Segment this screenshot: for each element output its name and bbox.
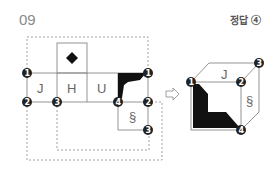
- diamond-icon: [66, 52, 78, 64]
- black-face-cube: [193, 84, 240, 128]
- arrow-right-icon: [166, 88, 179, 100]
- svg-text:2: 2: [25, 98, 31, 107]
- svg-text:3: 3: [55, 98, 61, 107]
- svg-text:2: 2: [146, 98, 152, 107]
- svg-text:1: 1: [146, 69, 152, 78]
- svg-text:1: 1: [25, 69, 31, 78]
- face-section: §: [129, 109, 136, 124]
- face-U: U: [97, 81, 106, 96]
- face-H: H: [67, 81, 76, 96]
- svg-text:3: 3: [257, 59, 263, 68]
- svg-text:4: 4: [116, 98, 122, 107]
- cube-face-J: J: [221, 67, 228, 82]
- svg-text:1: 1: [189, 78, 195, 87]
- svg-text:4: 4: [239, 126, 245, 135]
- diagram: J H U § 1 2 3 4 1 2 3 J § 1 2 3 4: [0, 0, 279, 173]
- black-face-net: [118, 73, 146, 102]
- fold-guides: [27, 37, 162, 160]
- cube-face-section: §: [246, 93, 253, 108]
- svg-text:3: 3: [146, 126, 152, 135]
- face-J: J: [37, 81, 44, 96]
- svg-text:2: 2: [239, 78, 245, 87]
